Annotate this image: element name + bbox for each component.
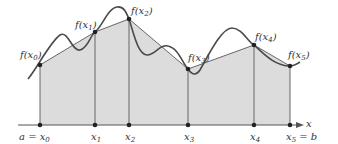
f-label-5: f(x5)	[287, 49, 310, 62]
f-label-2: f(x2)	[130, 5, 153, 18]
trapezoid-diagram: x f(x0) f(x1) f(x2) f(x3) f(x4) f(x5) a …	[0, 0, 338, 144]
f-label-1: f(x1)	[74, 19, 97, 32]
tick-label-1: x1	[91, 131, 101, 144]
f-label-4: f(x4)	[254, 31, 277, 44]
tick-label-2: x2	[125, 131, 136, 144]
x-axis-arrow	[296, 122, 304, 128]
tick-label-4: x4	[250, 131, 260, 144]
tick-label-0: a = x0	[19, 131, 50, 144]
tick-label-5: x5 = b	[286, 131, 317, 144]
tick-label-3: x3	[184, 131, 195, 144]
x-axis-label: x	[306, 118, 312, 129]
f-label-0: f(x0)	[19, 49, 42, 62]
trapezoid-area	[40, 19, 290, 125]
